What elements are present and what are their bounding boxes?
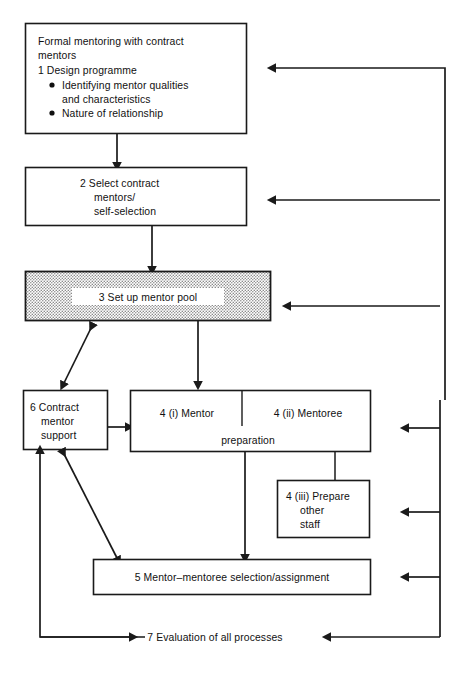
node-box4: 4 (i) Mentor 4 (ii) Mentoree preparation [131,391,371,452]
bullet-dot-icon [49,82,54,87]
bullet-dot-icon [49,110,54,115]
node-box6: 6 Contract mentor support [24,391,108,450]
flowchart-diagram: Formal mentoring with contract mentors 1… [0,0,468,676]
box1-bullet-0-line1: Identifying mentor qualities [62,80,189,91]
box4iii-line1: 4 (iii) Prepare [286,491,350,502]
box3-label: 3 Set up mentor pool [99,292,198,303]
box6-line3: support [41,430,76,441]
box4-right-label: 4 (ii) Mentoree [274,408,343,419]
node-box1: Formal mentoring with contract mentors 1… [26,24,247,134]
box1-bullet-1-line1: Nature of relationship [62,108,163,119]
connector-box3-box6-bidirectional [64,324,93,383]
box2-line3: self-selection [94,206,156,217]
box4-shared-label: preparation [221,435,275,446]
box1-bullet-0-line2: and characteristics [62,94,151,105]
node-box5: 5 Mentor–mentoree selection/assignment [94,560,371,595]
box2-line1: 2 Select contract [80,178,159,189]
box1-heading-line1: Formal mentoring with contract [38,36,184,47]
node-box2: 2 Select contract mentors/ self-selectio… [26,168,247,226]
box6-line1: 6 Contract [30,402,79,413]
box4-left-label: 4 (i) Mentor [160,408,215,419]
node-box4iii: 4 (iii) Prepare other staff [278,481,370,538]
box1-heading-line2: mentors [38,50,76,61]
node-item7: 7 Evaluation of all processes [147,632,282,643]
box4iii-line2: other [300,505,325,516]
connector-box6-box5-bidirectional [62,450,117,558]
item7-label: 7 Evaluation of all processes [147,632,282,643]
flowchart-canvas: Formal mentoring with contract mentors 1… [0,0,468,676]
box2-line2: mentors/ [94,192,135,203]
rail-left-box6-feedback [40,453,145,637]
box6-line2: mentor [41,416,74,427]
box4iii-line3: staff [300,519,320,530]
rail-outer-arrow-to-box1 [275,68,445,400]
box5-label: 5 Mentor–mentoree selection/assignment [135,572,330,583]
box1-step-label: 1 Design programme [38,65,137,76]
node-box3: 3 Set up mentor pool [26,272,271,321]
